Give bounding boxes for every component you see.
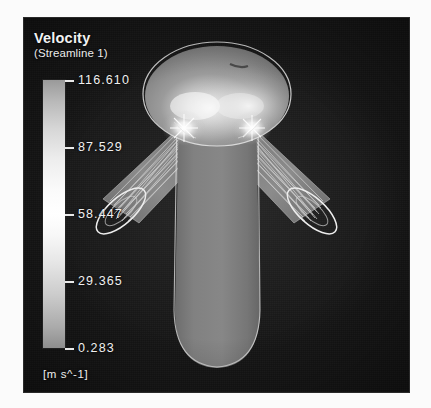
- render-viewport[interactable]: Velocity (Streamline 1) 116.61087.52958.…: [24, 18, 409, 392]
- colorbar-tick-1: [65, 147, 74, 149]
- left-shoulder-highlight: [162, 110, 206, 146]
- colorbar-tick-2: [65, 214, 74, 216]
- colorbar-tick-label-4: 0.283: [78, 341, 115, 355]
- colorbar-tick-label-0: 116.610: [78, 73, 130, 87]
- colorbar-tick-label-2: 58.447: [78, 207, 123, 221]
- colorbar-gradient: [43, 80, 65, 348]
- legend-subtitle: (Streamline 1): [34, 47, 154, 59]
- screenshot-root: Velocity (Streamline 1) 116.61087.52958.…: [0, 0, 431, 408]
- right-shoulder-highlight: [232, 111, 272, 145]
- velocity-legend: Velocity (Streamline 1) 116.61087.52958.…: [34, 30, 154, 380]
- colorbar-tick-label-1: 87.529: [78, 140, 123, 154]
- colorbar-tick-0: [65, 80, 74, 82]
- colorbar-tick-label-3: 29.365: [78, 274, 123, 288]
- colorbar-wrap: [43, 80, 65, 348]
- legend-title: Velocity: [34, 30, 154, 46]
- legend-units: [m s^-1]: [43, 368, 88, 380]
- colorbar-tick-3: [65, 281, 74, 283]
- colorbar-tick-4: [65, 348, 74, 350]
